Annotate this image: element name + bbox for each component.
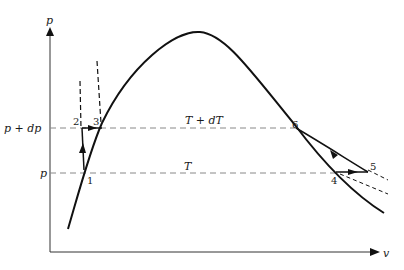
path-5-to-6	[296, 128, 368, 172]
dashed-extension-3	[97, 61, 101, 123]
arrow-right-icon	[348, 169, 358, 175]
pressure-label-upper: p + dp	[4, 122, 41, 135]
point-label-6: 6	[292, 119, 298, 130]
isotherm-label-lower: T	[184, 160, 193, 173]
point-label-4: 4	[331, 175, 337, 186]
isotherm-label-upper: T + dT	[185, 114, 225, 127]
point-label-5: 5	[370, 161, 376, 172]
arrow-up-icon	[79, 143, 86, 153]
dashed-extension-2	[80, 81, 81, 128]
y-axis-label: p	[46, 14, 53, 27]
point-label-2: 2	[73, 116, 79, 127]
x-axis-label: v	[383, 247, 390, 260]
x-axis-arrow-icon	[370, 248, 380, 256]
pressure-label-lower: p	[40, 167, 47, 180]
y-axis-arrow-icon	[46, 27, 54, 36]
pv-diagram: p v p + dp p T + dT T 1 2 3 4 5 6	[0, 0, 404, 270]
point-label-3: 3	[93, 116, 99, 127]
axes	[46, 27, 380, 256]
point-label-1: 1	[87, 175, 93, 186]
coexistence-curve	[68, 32, 384, 229]
